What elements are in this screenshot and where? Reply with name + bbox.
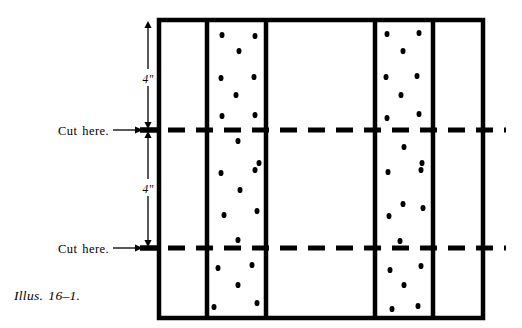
speckle-dot	[402, 282, 407, 288]
cut-here-label-lower: Cut here.	[58, 243, 109, 256]
speckle-dot	[417, 30, 422, 36]
illustration-figure: 4" 4" Cut here. Cut here. Illus. 16–1.	[0, 0, 522, 328]
speckle-dot	[416, 303, 421, 309]
dimension-arrowhead-up-0	[144, 21, 151, 28]
speckle-dot	[421, 205, 426, 211]
speckle-dot	[253, 167, 258, 173]
speckle-dot	[220, 113, 225, 119]
speckle-group-right	[384, 30, 426, 312]
speckle-dot	[415, 73, 420, 79]
speckle-dot	[417, 111, 422, 117]
speckle-dot	[390, 306, 395, 312]
speckle-dot	[384, 74, 389, 80]
speckle-dot	[222, 212, 227, 218]
speckle-dot	[234, 92, 239, 98]
dimension-label-upper: 4"	[143, 74, 154, 86]
speckle-dot	[236, 138, 241, 144]
speckle-dot	[253, 112, 258, 118]
speckle-dot	[257, 160, 262, 166]
speckle-dot	[255, 300, 260, 306]
speckle-dot	[401, 48, 406, 54]
speckle-dot	[399, 92, 404, 98]
speckle-dot	[419, 167, 424, 173]
speckle-dot	[212, 304, 217, 310]
figure-caption: Illus. 16–1.	[14, 289, 80, 303]
dimension-label-lower: 4"	[143, 184, 154, 196]
speckle-dot	[253, 33, 258, 39]
cut-here-label-upper: Cut here.	[58, 125, 109, 138]
speckle-dot	[402, 144, 407, 150]
speckle-dot	[419, 263, 424, 269]
speckle-dot	[219, 170, 224, 176]
speckle-dot	[250, 262, 255, 268]
speckle-dot	[216, 265, 221, 271]
speckle-dot	[387, 213, 392, 219]
speckle-dot	[238, 187, 243, 193]
speckle-dot	[236, 282, 241, 288]
illustration-canvas	[0, 0, 522, 328]
speckle-dot	[220, 32, 225, 38]
speckle-dot	[219, 75, 224, 81]
speckle-dot	[401, 201, 406, 207]
speckle-dot	[237, 48, 242, 54]
speckle-dot	[420, 160, 425, 166]
speckle-dot	[385, 115, 390, 121]
speckle-dot	[236, 237, 241, 243]
speckle-dot	[385, 31, 390, 37]
speckle-group-left	[212, 32, 262, 310]
speckle-dot	[398, 238, 403, 244]
speckle-dot	[255, 208, 260, 214]
speckle-dot	[252, 74, 257, 80]
speckle-dot	[388, 267, 393, 273]
speckle-dot	[386, 169, 391, 175]
